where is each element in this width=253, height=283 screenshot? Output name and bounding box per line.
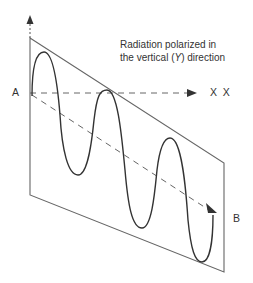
- caption-line-2-post: ) direction: [181, 52, 225, 63]
- label-a: A: [12, 87, 19, 98]
- horizontal-arrowhead: [187, 89, 197, 97]
- propagation-dashed-axis: [32, 95, 209, 210]
- y-axis-arrowhead: [27, 15, 34, 24]
- caption: Radiation polarized in the vertical (Y) …: [120, 38, 225, 64]
- caption-line-2: the vertical (Y) direction: [120, 51, 225, 64]
- em-wave: [32, 52, 213, 262]
- caption-line-2-pre: the vertical (: [120, 52, 174, 63]
- caption-line-1: Radiation polarized in: [120, 38, 225, 51]
- polarization-plane: [30, 38, 224, 272]
- label-x-marks: X X: [210, 87, 230, 98]
- propagation-arrowhead: [206, 203, 217, 213]
- label-b: B: [233, 213, 240, 224]
